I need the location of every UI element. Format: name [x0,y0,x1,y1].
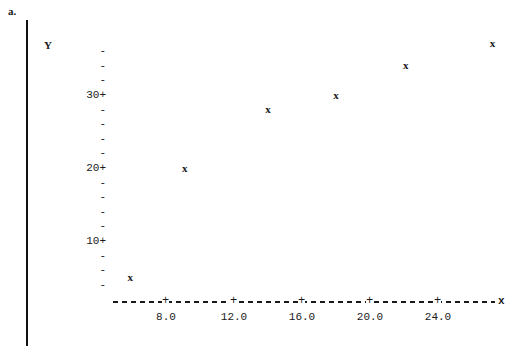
y-axis-minor-tick: - [72,178,106,189]
y-axis-minor-tick: - [72,265,106,276]
x-axis-label: x [498,296,505,307]
y-axis-minor-tick: - [72,46,106,57]
y-axis-minor-tick: - [72,207,106,218]
x-axis-tick-label: 24.0 [416,312,460,323]
y-axis-minor-tick: - [72,280,106,291]
x-axis-tick-mark: + [434,295,441,307]
x-axis-tick-mark: + [366,295,373,307]
data-point-marker: x [488,38,497,49]
data-point-marker: x [332,90,341,101]
y-axis-label: Y [44,39,52,51]
y-axis-minor-tick: - [72,221,106,232]
data-point-marker: x [180,163,189,174]
y-axis-minor-tick: - [72,119,106,130]
scatter-plot-figure: a. Y ---10+----20+----30+--- +8.0+12.0+1… [0,0,521,353]
x-axis-tick-label: 16.0 [280,312,324,323]
data-point-marker: x [264,104,273,115]
y-axis-minor-tick: - [72,251,106,262]
y-axis-minor-tick: - [72,75,106,86]
y-axis-minor-tick: - [72,148,106,159]
x-axis-tick-label: 8.0 [144,312,188,323]
plot-area: Y ---10+----20+----30+--- +8.0+12.0+16.0… [0,0,521,353]
data-point-marker: x [401,60,410,71]
y-axis-minor-tick: - [72,192,106,203]
y-axis-minor-tick: - [72,105,106,116]
y-axis-tick-label: 20+ [72,163,106,174]
x-axis-tick-label: 12.0 [212,312,256,323]
x-axis-tick-mark: + [162,295,169,307]
x-axis-tick-mark: + [230,295,237,307]
y-axis-minor-tick: - [72,134,106,145]
y-axis-tick-label: 30+ [72,90,106,101]
x-axis-tick-label: 20.0 [348,312,392,323]
y-axis-tick-label: 10+ [72,236,106,247]
y-axis-minor-tick: - [72,61,106,72]
x-axis-tick-mark: + [298,295,305,307]
data-point-marker: x [126,272,135,283]
